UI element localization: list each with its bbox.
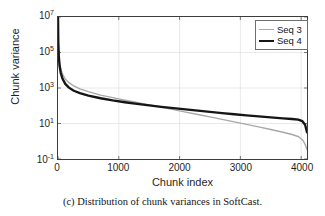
legend-label-seq-3: Seq 3 — [277, 25, 302, 35]
figure-panel: 10-1 101 103 105 107 0 1000 2000 3000 40… — [0, 0, 325, 216]
x-tick-label: 2000 — [168, 163, 190, 173]
x-tick-label: 0 — [54, 163, 60, 173]
legend[interactable]: Seq 3 Seq 4 — [255, 20, 308, 50]
y-tick-label: 10-1 — [37, 155, 54, 165]
legend-line-swatch-seq-4 — [259, 40, 274, 42]
legend-label-seq-4: Seq 4 — [277, 36, 302, 46]
figure-caption: (c) Distribution of chunk variances in S… — [0, 196, 325, 208]
y-tick-label: 101 — [39, 119, 54, 129]
y-tick-label: 107 — [39, 11, 54, 21]
y-tick-label: 105 — [39, 47, 54, 57]
legend-line-swatch-seq-3 — [259, 29, 274, 30]
y-tick-label: 103 — [39, 83, 54, 93]
scan-bleed-artifact — [0, 0, 325, 9]
x-axis-title: Chunk index — [57, 177, 308, 188]
x-tick-label: 3000 — [230, 163, 252, 173]
y-axis-title: Chunk variance — [10, 7, 21, 127]
x-tick-label: 1000 — [107, 163, 129, 173]
legend-item-seq-3[interactable]: Seq 3 — [258, 24, 305, 35]
x-tick-label: 4000 — [291, 163, 313, 173]
legend-item-seq-4[interactable]: Seq 4 — [258, 35, 305, 46]
